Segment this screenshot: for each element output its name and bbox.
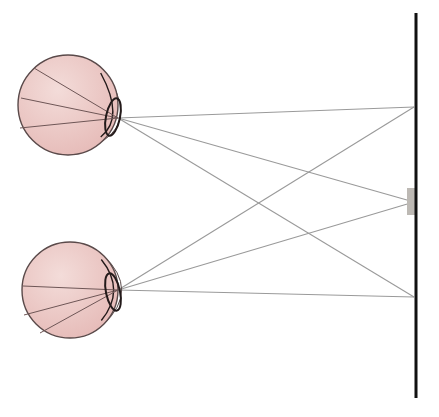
light-ray [118, 202, 414, 290]
light-ray [118, 290, 414, 297]
eyeball [18, 55, 118, 155]
bottom-eye [22, 242, 124, 338]
binocular-vision-diagram [0, 0, 439, 417]
light-ray [118, 107, 414, 290]
eyes [18, 55, 124, 338]
top-eye [18, 55, 124, 155]
light-ray [118, 107, 414, 118]
light-ray [118, 118, 414, 297]
eyeball [22, 242, 118, 338]
diagram-canvas [0, 0, 439, 417]
light-rays [118, 107, 414, 297]
light-ray [118, 118, 414, 202]
